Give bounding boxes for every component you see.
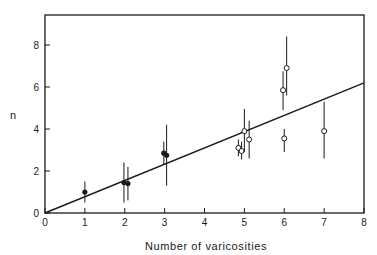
x-tick-label: 4 (202, 217, 208, 228)
x-axis-label: Number of varicosities (145, 240, 267, 252)
data-point-open (239, 149, 244, 154)
y-axis-label: n (10, 109, 16, 121)
x-tick-label: 2 (122, 217, 128, 228)
y-tick-label: 8 (33, 40, 39, 51)
data-point-filled (164, 153, 169, 158)
x-tick-label: 1 (82, 217, 88, 228)
x-tick-label: 8 (361, 217, 367, 228)
scatter-chart: 01234567802468 n Number of varicosities (0, 0, 377, 255)
data-point-open (282, 136, 287, 141)
x-tick-label: 5 (242, 217, 248, 228)
data-point-open (247, 137, 252, 142)
x-tick-label: 7 (321, 217, 327, 228)
data-point-filled (82, 189, 87, 194)
data-point-open (284, 66, 289, 71)
plot-frame (45, 15, 364, 213)
x-tick-label: 3 (162, 217, 168, 228)
data-point-open (242, 129, 247, 134)
data-point-open (281, 88, 286, 93)
y-tick-label: 4 (33, 124, 39, 135)
x-tick-label: 0 (42, 217, 48, 228)
regression-line (45, 83, 364, 213)
y-tick-label: 6 (33, 82, 39, 93)
data-point-open (322, 129, 327, 134)
y-tick-label: 2 (33, 166, 39, 177)
y-tick-label: 0 (33, 208, 39, 219)
plot-area: 01234567802468 (33, 15, 367, 228)
x-tick-label: 6 (281, 217, 287, 228)
data-point-filled (125, 181, 130, 186)
